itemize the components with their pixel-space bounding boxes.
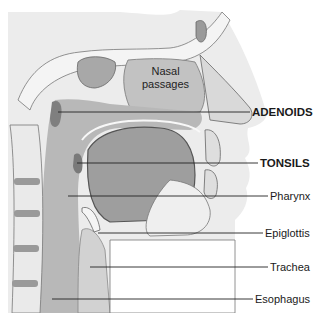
label-tonsils: TONSILS	[260, 157, 310, 169]
label-trachea: Trachea	[270, 261, 310, 273]
nasal-passages-label: Nasal passages	[142, 65, 189, 91]
neck-front	[110, 240, 235, 313]
sinus-small	[196, 21, 206, 42]
label-pharynx: Pharynx	[270, 190, 310, 202]
label-epiglottis: Epiglottis	[265, 227, 310, 239]
nasal-label-line1: Nasal	[142, 65, 189, 78]
label-adenoids: ADENOIDS	[252, 106, 313, 118]
tonsil-tissue	[73, 153, 83, 173]
nasal-label-line2: passages	[142, 78, 189, 91]
label-esophagus: Esophagus	[255, 293, 310, 305]
